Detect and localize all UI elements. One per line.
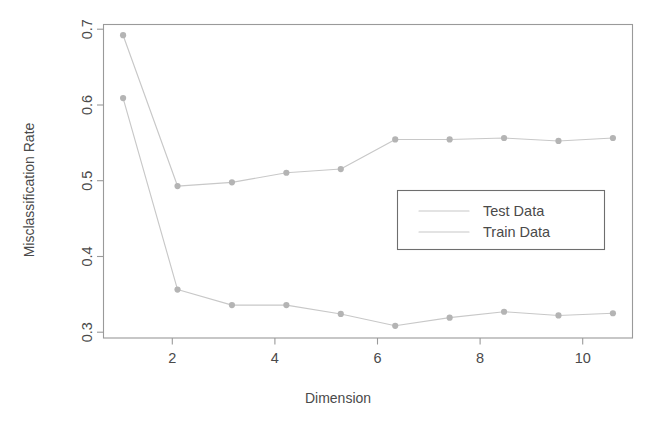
data-point [447,315,453,321]
series-line [123,35,613,186]
x-tick-label-2: 6 [373,350,381,366]
data-point [555,138,561,144]
legend-label-test: Test Data [483,203,545,219]
y-tick-label-0: 0.3 [79,322,95,342]
y-tick-label-4: 0.7 [79,19,95,39]
y-axis-tick-labels: 0.3 0.4 0.5 0.6 0.7 [79,19,95,342]
y-tick-label-2: 0.5 [79,171,95,191]
data-series-layer [120,32,616,329]
legend-box [398,191,605,250]
data-point [501,309,507,315]
data-point [447,136,453,142]
data-point [610,135,616,141]
data-point [501,135,507,141]
legend-label-train: Train Data [483,224,551,240]
data-point [392,323,398,329]
data-point [392,136,398,142]
data-point [338,311,344,317]
data-point [174,183,180,189]
data-point [338,166,344,172]
data-point [283,170,289,176]
chart-page: 0.3 0.4 0.5 0.6 0.7 2 4 6 8 10 Dimension… [0,0,663,431]
x-tick-label-3: 8 [476,350,484,366]
misclassification-rate-line-chart: 0.3 0.4 0.5 0.6 0.7 2 4 6 8 10 Dimension… [0,0,663,431]
data-point [229,302,235,308]
data-point [174,286,180,292]
x-axis-tick-labels: 2 4 6 8 10 [168,350,591,366]
data-point [610,310,616,316]
y-axis-ticks [97,29,104,332]
y-tick-label-1: 0.4 [79,246,95,266]
x-tick-label-1: 4 [271,350,279,366]
y-tick-label-3: 0.6 [79,95,95,115]
x-axis-ticks [172,338,582,345]
series-test-data [120,32,616,189]
chart-legend: Test Data Train Data [398,191,605,250]
data-point [120,32,126,38]
data-point [283,302,289,308]
y-axis-title: Misclassification Rate [21,122,37,257]
x-axis-title: Dimension [305,390,371,406]
x-tick-label-0: 2 [168,350,176,366]
x-tick-label-4: 10 [575,350,591,366]
data-point [229,179,235,185]
data-point [555,312,561,318]
data-point [120,95,126,101]
